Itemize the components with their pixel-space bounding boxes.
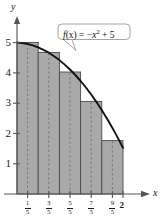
x-tick-label-1: 1 5: [22, 200, 34, 216]
y-tick-label-1: 1: [0, 158, 11, 169]
x-tick-label-3-denominator: 5: [64, 209, 76, 216]
y-tick-label-2: 2: [0, 128, 11, 139]
x-tick-label-2: 3 5: [43, 200, 55, 216]
x-axis-label: x: [153, 188, 157, 198]
x-tick-label-5-denominator: 5: [106, 209, 118, 216]
x-tick-label-2-denominator: 5: [43, 209, 55, 216]
x-tick-label-4: 7 5: [85, 200, 97, 216]
x-tick-label-6: 2: [120, 200, 125, 210]
x-tick-label-1-denominator: 5: [22, 209, 34, 216]
x-tick-label-2-numerator: 3: [43, 200, 55, 207]
x-tick-label-5: 9 5: [106, 200, 118, 216]
y-tick-label-5: 5: [0, 37, 11, 48]
x-tick-label-1-numerator: 1: [22, 200, 34, 207]
x-tick-label-4-numerator: 7: [85, 200, 97, 207]
callout-fn-arg: (x): [66, 30, 77, 40]
x-tick-label-3-numerator: 5: [64, 200, 76, 207]
bar-rect-5: [102, 141, 123, 194]
x-tick-label-3: 5 5: [64, 200, 76, 216]
bar-rect-4: [81, 101, 102, 194]
y-axis-label: y: [11, 2, 15, 12]
callout-equals: =: [79, 30, 84, 40]
x-tick-label-4-denominator: 5: [85, 209, 97, 216]
callout-exponent: 2: [96, 28, 99, 35]
callout-constant: + 5: [102, 30, 114, 40]
y-tick-label-3: 3: [0, 97, 11, 108]
function-callout-label: f(x) = −x2 + 5: [63, 28, 115, 40]
y-tick-label-4: 4: [0, 67, 11, 78]
x-tick-label-5-numerator: 9: [106, 200, 118, 207]
